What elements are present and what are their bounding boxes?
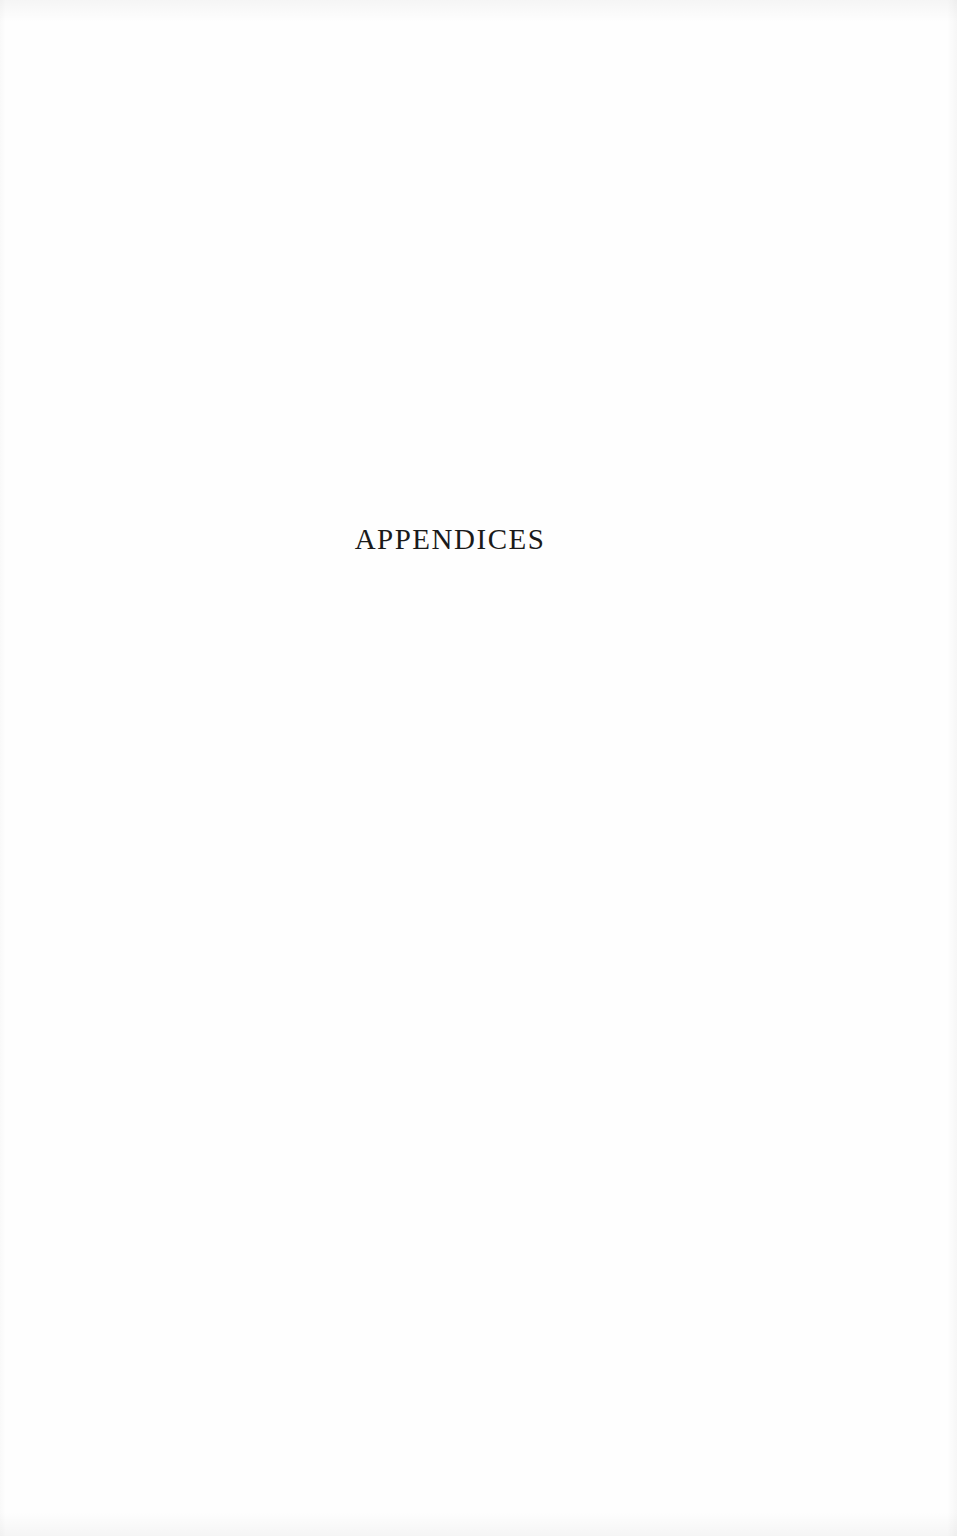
scan-edge-left [0,0,6,1536]
section-title: APPENDICES [0,521,900,557]
scan-edge-top [0,0,957,22]
book-page: APPENDICES [0,0,957,1536]
scan-edge-right [947,0,957,1536]
scan-edge-bottom [0,1512,957,1536]
